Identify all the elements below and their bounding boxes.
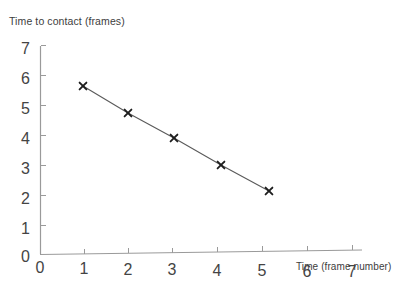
y-tick-marks [41,46,46,226]
data-point-2 [125,110,132,117]
plot-area [0,0,401,293]
data-point-3 [171,135,178,142]
x-tick-marks [85,245,353,254]
x-axis-line [40,250,362,255]
data-line-series-1 [83,86,269,191]
data-point-4 [218,162,225,169]
line-chart: Time to contact (frames) Time (frame num… [0,0,401,293]
data-point-1 [80,83,87,90]
data-point-5 [266,188,273,195]
